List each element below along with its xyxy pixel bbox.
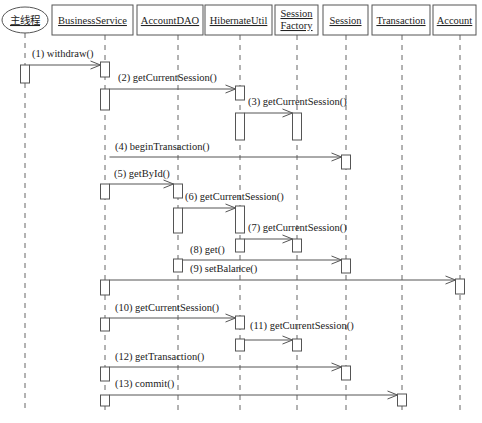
activation-bar-tx — [398, 394, 407, 406]
message-13: (13) commit() — [110, 378, 398, 399]
participant-label: Session — [280, 8, 313, 19]
activation-bar-bs — [101, 367, 110, 381]
activation-bar-hu — [236, 206, 245, 233]
activation-bar-hu — [236, 316, 245, 329]
participant-label: Factory — [280, 20, 313, 31]
participant-label: Transaction — [376, 15, 426, 26]
activation-bar-sess — [342, 259, 351, 273]
activation-bar-acc — [456, 279, 465, 294]
activation-bar-sess — [342, 155, 351, 169]
activation-bar-sf — [293, 339, 302, 351]
activation-bar-sf — [293, 113, 302, 140]
activation-bars — [21, 62, 465, 406]
activation-bar-bs — [101, 89, 110, 110]
activation-bar-bs — [101, 280, 110, 295]
message-label: (5) getById() — [114, 168, 170, 180]
message-label: (9) setBalance() — [190, 263, 258, 275]
activation-bar-sess — [342, 366, 351, 380]
participant-bs: BusinessService — [52, 5, 133, 35]
activation-bar-hu — [236, 239, 245, 252]
participant-acc: Account — [433, 5, 476, 35]
participant-hu: HibernateUtil — [205, 5, 272, 35]
participant-sess: Session — [323, 5, 368, 35]
message-6: (6) getCurrentSession() — [183, 191, 285, 212]
message-12: (12) getTransaction() — [110, 351, 342, 371]
message-9: (9) setBalance() — [110, 263, 456, 284]
activation-bar-main — [21, 65, 30, 83]
activation-bar-bs — [101, 395, 110, 406]
participant-label: HibernateUtil — [210, 15, 268, 26]
activation-bar-dao — [174, 259, 183, 272]
activation-bar-dao — [174, 184, 183, 198]
message-5: (5) getById() — [110, 168, 174, 188]
participant-dao: AccountDAO — [137, 5, 203, 35]
participant-headers: 主线程BusinessServiceAccountDAOHibernateUti… — [2, 5, 476, 35]
activation-bar-hu — [236, 86, 245, 100]
message-label: (12) getTransaction() — [115, 351, 205, 363]
participant-tx: Transaction — [372, 5, 430, 35]
participant-label: Session — [329, 15, 362, 26]
participant-label: BusinessService — [58, 15, 127, 26]
message-label: (8) get() — [190, 244, 225, 256]
activation-bar-bs — [101, 318, 110, 331]
message-4: (4) beginTransaction() — [110, 141, 342, 161]
message-label: (7) getCurrentSession() — [248, 222, 347, 234]
participant-main: 主线程 — [2, 7, 48, 33]
message-10: (10) getCurrentSession() — [110, 302, 236, 322]
activation-bar-hu — [236, 113, 245, 140]
activation-bar-bs — [101, 184, 110, 199]
activation-bar-sf — [293, 239, 302, 252]
message-1: (1) withdraw() — [30, 48, 101, 69]
activation-bar-bs — [101, 62, 110, 77]
message-8: (8) get() — [183, 244, 342, 264]
message-label: (13) commit() — [115, 378, 175, 390]
activation-bar-hu — [236, 339, 245, 351]
message-label: (6) getCurrentSession() — [185, 191, 284, 203]
participant-label: Account — [437, 15, 473, 26]
message-label: (3) getCurrentSession() — [248, 96, 347, 108]
message-label: (10) getCurrentSession() — [115, 302, 220, 314]
participant-sf: SessionFactory — [275, 5, 318, 35]
participant-label: AccountDAO — [141, 15, 200, 26]
message-label: (2) getCurrentSession() — [118, 72, 217, 84]
message-label: (1) withdraw() — [32, 48, 94, 60]
sequence-diagram: 主线程BusinessServiceAccountDAOHibernateUti… — [0, 0, 482, 423]
participant-label: 主线程 — [10, 14, 41, 26]
message-2: (2) getCurrentSession() — [110, 72, 236, 93]
message-label: (11) getCurrentSession() — [250, 320, 354, 332]
activation-bar-dao — [174, 208, 183, 233]
message-label: (4) beginTransaction() — [115, 141, 210, 153]
